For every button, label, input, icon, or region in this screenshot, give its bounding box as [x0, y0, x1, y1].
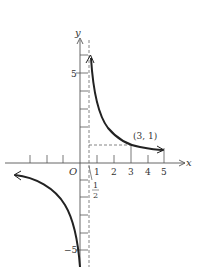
origin-label: O	[69, 166, 77, 177]
svg-text:4: 4	[145, 167, 151, 177]
asymptote-pointer	[89, 166, 92, 180]
asymptote-label-num: 1	[93, 181, 98, 190]
svg-text:3: 3	[128, 167, 134, 177]
y-ticks	[76, 55, 88, 250]
y-tick-label-5: 5	[71, 69, 77, 79]
graph-canvas: y x 1 2 3 4 5 O 5 −5 1 2	[0, 0, 198, 267]
svg-text:5: 5	[161, 167, 167, 177]
x-axis-label: x	[186, 157, 192, 168]
svg-text:2: 2	[111, 167, 117, 177]
asymptote-label-den: 2	[93, 191, 98, 200]
y-axis-label: y	[74, 27, 81, 38]
right-branch-top-arrow-icon	[86, 55, 94, 63]
y-tick-label-neg5: −5	[64, 245, 78, 255]
svg-text:1: 1	[94, 167, 100, 177]
point-label: (3, 1)	[133, 131, 157, 141]
x-tick-labels: 1 2 3 4 5	[94, 167, 167, 177]
